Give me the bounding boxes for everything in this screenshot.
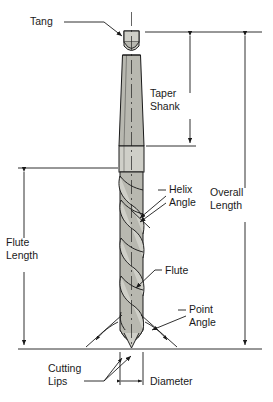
drill-diagram: Tang Taper Shank Overall Length Flute Le… bbox=[0, 0, 273, 402]
label-taper-shank-line2: Shank bbox=[150, 100, 181, 112]
label-point-angle-line1: Point bbox=[189, 303, 213, 315]
label-diameter: Diameter bbox=[150, 375, 193, 387]
label-taper-shank-line1: Taper bbox=[150, 87, 177, 99]
label-cutting-lips-line1: Cutting bbox=[48, 362, 81, 374]
figure-canvas: Tang Taper Shank Overall Length Flute Le… bbox=[0, 0, 273, 402]
leader-point-angle bbox=[152, 310, 186, 330]
label-overall-length-line2: Length bbox=[210, 199, 242, 211]
label-flute-length-line1: Flute bbox=[6, 236, 30, 248]
label-point-angle-line2: Angle bbox=[189, 316, 216, 328]
label-flute: Flute bbox=[165, 264, 189, 276]
leader-cutting-lips bbox=[84, 356, 131, 381]
leader-tang bbox=[64, 22, 122, 36]
dimension-diameter bbox=[120, 352, 143, 385]
label-cutting-lips-line2: Lips bbox=[48, 375, 67, 387]
label-helix-angle-line1: Helix bbox=[169, 183, 193, 195]
label-helix-angle-line2: Angle bbox=[169, 196, 196, 208]
label-flute-length-line2: Length bbox=[6, 249, 38, 261]
label-overall-length-line1: Overall bbox=[210, 186, 243, 198]
label-tang: Tang bbox=[30, 15, 53, 27]
